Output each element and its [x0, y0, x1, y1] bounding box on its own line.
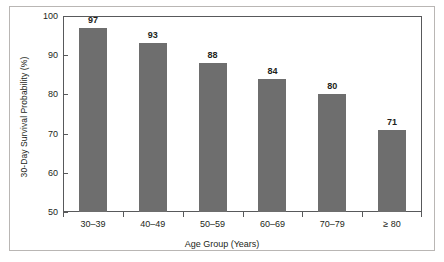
y-tick-mark	[63, 94, 68, 95]
x-tick-mark	[63, 212, 64, 217]
bar-value-label: 97	[71, 15, 115, 25]
chart-figure: 30-Day Survival Probability (%) 50607080…	[0, 0, 444, 262]
y-tick-label: 60	[28, 168, 58, 177]
x-axis-title: Age Group (Years)	[0, 239, 444, 249]
plot-area	[63, 16, 422, 212]
x-tick-label: 70–79	[302, 219, 362, 229]
y-tick-mark	[63, 173, 68, 174]
x-tick-label: 30–39	[63, 219, 123, 229]
x-tick-mark	[302, 212, 303, 217]
x-tick-label: ≥ 80	[362, 219, 422, 229]
x-tick-label: 40–49	[123, 219, 183, 229]
bar-value-label: 71	[370, 117, 414, 127]
y-tick-mark	[63, 134, 68, 135]
y-tick-label: 90	[28, 51, 58, 60]
bar-value-label: 84	[250, 66, 294, 76]
x-tick-mark	[421, 212, 422, 217]
bar	[79, 28, 107, 212]
x-tick-mark	[183, 212, 184, 217]
bar-value-label: 88	[191, 50, 235, 60]
y-tick-label: 100	[28, 12, 58, 21]
x-tick-mark	[243, 212, 244, 217]
y-tick-mark	[63, 16, 68, 17]
y-tick-mark	[63, 55, 68, 56]
bar-value-label: 93	[131, 30, 175, 40]
x-tick-mark	[362, 212, 363, 217]
bar	[199, 63, 227, 212]
bar-value-label: 80	[310, 81, 354, 91]
y-tick-label: 50	[28, 208, 58, 217]
x-tick-label: 50–59	[183, 219, 243, 229]
y-tick-label: 70	[28, 129, 58, 138]
bar	[318, 94, 346, 212]
bar	[139, 43, 167, 212]
x-tick-mark	[123, 212, 124, 217]
y-tick-label: 80	[28, 90, 58, 99]
bar	[258, 79, 286, 212]
bar	[378, 130, 406, 212]
x-tick-label: 60–69	[242, 219, 302, 229]
